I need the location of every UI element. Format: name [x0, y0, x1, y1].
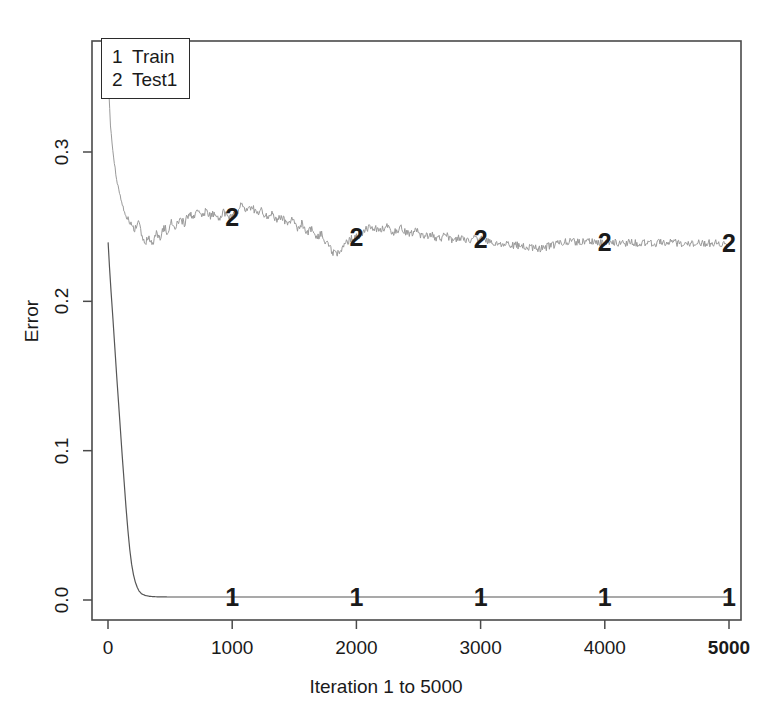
- y-tick-label: 0.2: [51, 271, 73, 331]
- series-marker-1: 1: [474, 583, 488, 611]
- legend-key: 2: [112, 68, 123, 91]
- chart-figure: 1111122222 Error Iteration 1 to 5000 010…: [0, 0, 772, 724]
- series-marker-2: 2: [349, 223, 363, 251]
- legend-key: 1: [112, 45, 123, 68]
- series-marker-2: 2: [722, 229, 736, 257]
- series-marker-1: 1: [598, 583, 612, 611]
- legend-label: Test1: [132, 68, 177, 91]
- plot-frame: [92, 41, 741, 620]
- axis-ticks: [83, 152, 729, 629]
- legend-box: 1Train2Test1: [101, 38, 190, 99]
- x-tick-label: 0: [63, 637, 153, 659]
- y-tick-label: 0.3: [51, 122, 73, 182]
- series-point-markers: 1111122222: [225, 203, 736, 611]
- x-tick-label: 4000: [560, 637, 650, 659]
- plot-area: 1111122222: [0, 0, 772, 724]
- x-tick-label: 1000: [187, 637, 277, 659]
- series-marker-2: 2: [225, 203, 239, 231]
- x-tick-label: 5000: [684, 637, 772, 659]
- series-marker-1: 1: [722, 583, 736, 611]
- series-marker-1: 1: [349, 583, 363, 611]
- x-tick-label: 3000: [436, 637, 526, 659]
- series-marker-2: 2: [598, 228, 612, 256]
- y-tick-label: 0.0: [51, 570, 73, 630]
- y-axis-title: Error: [21, 271, 43, 371]
- x-tick-label: 2000: [311, 637, 401, 659]
- series-marker-2: 2: [474, 225, 488, 253]
- x-axis-title: Iteration 1 to 5000: [0, 676, 772, 698]
- y-tick-label: 0.1: [51, 421, 73, 481]
- legend-entry: 2Test1: [112, 68, 177, 91]
- data-series: [108, 75, 729, 597]
- legend-entry: 1Train: [112, 45, 177, 68]
- series-marker-1: 1: [225, 583, 239, 611]
- legend-label: Train: [132, 45, 175, 68]
